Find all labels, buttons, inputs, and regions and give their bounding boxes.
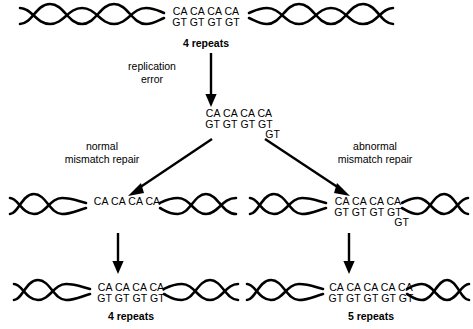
label-abnormal-mismatch-repair: abnormal mismatch repair [315,140,435,166]
dna-helix-left-normal-repaired [8,190,88,222]
caption-original-repeats: 4 repeats [166,37,246,49]
sequence-abnormal-repaired: CA CA CA CA GT GT GT GT GT [324,196,412,228]
bottom-strand-text: GT GT GT GT GT [328,293,413,304]
dna-helix-left-result-right [245,276,325,308]
dna-repeat-instability-diagram: CA CA CA CA GT GT GT GT 4 repeats replic… [0,0,473,329]
bottom-strand-text: GT GT GT GT [172,17,240,28]
bottom-strand-text: GT GT GT GT [97,293,165,304]
dna-helix-left-original [18,0,166,32]
top-strand-text: CA CA CA CA [94,196,160,207]
bottom-strand-text: GT GT GT GT [205,119,273,130]
sequence-slipped-intermediate: CA CA CA CA GT GT GT GT GT [195,108,283,140]
dna-helix-right-result-right [405,276,471,308]
arrow-replication-error [200,53,222,108]
dna-helix-left-abnormal-repaired [248,190,328,222]
arrow-right-continue [338,233,360,275]
bottom-strand-text: GT GT GT GT [334,207,402,218]
label-normal-mismatch-repair: normal mismatch repair [47,140,157,166]
label-abnormal-repair-line2: mismatch repair [315,153,435,166]
label-abnormal-repair-line1: abnormal [315,140,435,153]
dna-helix-right-result-left [162,276,240,308]
dna-helix-right-original [247,0,395,32]
label-replication-error-line1: replication [111,60,193,73]
caption-result-right-repeats: 5 repeats [321,310,421,322]
caption-result-left-repeats: 4 repeats [88,310,174,322]
label-normal-repair-line2: mismatch repair [47,153,157,166]
dna-helix-right-normal-repaired [158,190,238,222]
label-replication-error-line2: error [111,73,193,86]
dna-helix-left-result-left [12,276,92,308]
arrow-left-continue [107,233,129,275]
label-normal-repair-line1: normal [47,140,157,153]
sequence-original-allele: CA CA CA CA GT GT GT GT [163,6,249,27]
dna-helix-right-abnormal-repaired [400,190,470,222]
label-replication-error: replication error [111,60,193,86]
